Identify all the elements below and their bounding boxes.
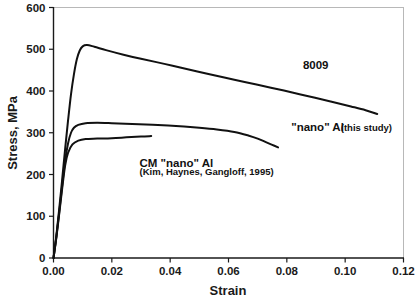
y-axis-title: Stress, MPa: [5, 95, 20, 169]
stress-strain-chart: 0100200300400500600 0.000.020.040.060.08…: [0, 0, 419, 297]
annotation-nano-al-main: "nano" Al: [291, 121, 344, 133]
chart-canvas: 0100200300400500600 0.000.020.040.060.08…: [0, 0, 419, 297]
y-tick-label-0: 0: [39, 252, 45, 264]
y-tick-label-400: 400: [26, 85, 45, 97]
x-tick-label-0.00: 0.00: [42, 265, 64, 277]
x-tick-label-0.12: 0.12: [392, 265, 414, 277]
x-axis-title: Strain: [210, 283, 247, 297]
y-tick-label-500: 500: [26, 43, 45, 55]
x-tick-label-0.06: 0.06: [217, 265, 239, 277]
y-tick-label-600: 600: [26, 2, 45, 14]
annotation-8009: 8009: [303, 59, 329, 71]
y-tick-label-300: 300: [26, 127, 45, 139]
annotation-nano-al-sub: (this study): [341, 122, 392, 133]
y-tick-label-200: 200: [26, 169, 45, 181]
x-tick-label-0.04: 0.04: [159, 265, 182, 277]
x-tick-label-0.10: 0.10: [334, 265, 356, 277]
x-tick-label-0.08: 0.08: [276, 265, 299, 277]
annotation-cm-nano-al-sub: (Kim, Haynes, Gangloff, 1995): [140, 166, 274, 177]
y-tick-label-100: 100: [26, 210, 45, 222]
x-tick-label-0.02: 0.02: [101, 265, 123, 277]
chart-background: [0, 0, 419, 297]
